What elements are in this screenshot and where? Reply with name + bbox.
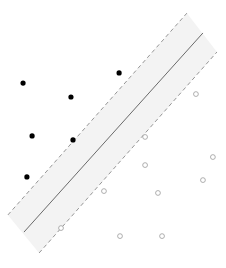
hollow-point-3	[210, 155, 215, 160]
filled-point-0	[20, 80, 25, 85]
filled-point-4	[70, 137, 75, 142]
hollow-point-2	[143, 163, 148, 168]
hollow-point-8	[118, 234, 123, 239]
hollow-point-9	[160, 234, 165, 239]
filled-point-2	[117, 70, 122, 75]
hollow-point-5	[156, 191, 161, 196]
hollow-point-4	[201, 178, 206, 183]
filled-point-5	[24, 174, 29, 179]
hollow-point-1	[143, 135, 148, 140]
hollow-point-6	[102, 189, 107, 194]
filled-point-3	[29, 133, 34, 138]
hollow-point-0	[194, 92, 199, 97]
separating-hyperplane	[24, 33, 203, 232]
filled-point-1	[68, 94, 73, 99]
svm-margin-diagram	[0, 0, 226, 268]
hollow-point-7	[59, 226, 64, 231]
